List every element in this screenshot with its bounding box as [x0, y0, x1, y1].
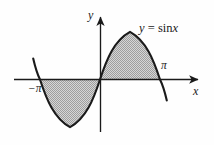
x-tick-label-pi: π	[161, 60, 167, 72]
curve-equation-label: y = sinx	[139, 22, 178, 35]
x-axis-label: x	[193, 85, 198, 97]
curve-equation-fn: sin	[158, 21, 173, 35]
figure-canvas	[0, 0, 214, 145]
x-tick-label-neg-pi: −π	[28, 83, 42, 95]
y-axis-label: y	[88, 9, 93, 21]
sine-curve-figure: y = sinx −π π x y	[0, 0, 214, 145]
curve-equation-eq: =	[145, 21, 158, 35]
curve-equation-arg: x	[172, 21, 178, 35]
